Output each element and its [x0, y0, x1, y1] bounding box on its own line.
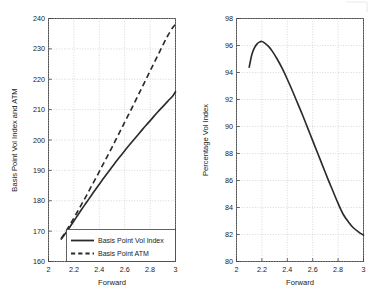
right-xtick-1: 2.2: [257, 265, 267, 274]
left-ytick-8: 240: [33, 14, 45, 23]
corner-artifact: [346, 2, 367, 12]
right-xtick-5: 3: [362, 265, 366, 274]
left-ytick-1: 170: [33, 227, 45, 236]
right-xtick-2: 2.4: [282, 265, 292, 274]
right-xtick-3: 2.6: [308, 265, 318, 274]
left-xtick-2: 2.4: [94, 265, 104, 274]
right-ytick-2: 84: [225, 203, 233, 212]
left-y-tick-labels: 160 170 180 190 200 210 220 230 240: [33, 14, 45, 266]
right-ytick-8: 96: [225, 41, 233, 50]
legend[interactable]: Basis Point Vol Index Basis Point ATM: [67, 230, 176, 262]
right-xtick-0: 2: [235, 265, 239, 274]
right-ytick-6: 92: [225, 95, 233, 104]
left-yaxis-title: Basis Point Vol Index and ATM: [10, 88, 19, 191]
chart-panel-right: 80 82 84 86 88 90 92 94 96 98 2 2.2 2.4 …: [191, 0, 382, 307]
left-xtick-0: 2: [47, 265, 51, 274]
right-xtick-4: 2.8: [333, 265, 343, 274]
left-ytick-6: 220: [33, 75, 45, 84]
left-ytick-7: 230: [33, 44, 45, 53]
left-chart-svg: 160 170 180 190 200 210 220 230 240 2 2.…: [0, 0, 191, 307]
legend-label-0: Basis Point Vol Index: [98, 237, 164, 244]
right-ytick-0: 80: [225, 257, 233, 266]
right-chart-svg: 80 82 84 86 88 90 92 94 96 98 2 2.2 2.4 …: [191, 0, 382, 307]
left-xtick-4: 2.8: [145, 265, 155, 274]
chart-panel-left: 160 170 180 190 200 210 220 230 240 2 2.…: [0, 0, 191, 307]
left-xtick-3: 2.6: [120, 265, 130, 274]
right-ytick-9: 98: [225, 14, 233, 23]
right-ytick-5: 90: [225, 122, 233, 131]
left-xaxis-title: Forward: [98, 278, 126, 287]
left-ytick-5: 210: [33, 105, 45, 114]
figure-container: 160 170 180 190 200 210 220 230 240 2 2.…: [0, 0, 383, 307]
left-ytick-0: 160: [33, 257, 45, 266]
right-x-tick-labels: 2 2.2 2.4 2.6 2.8 3: [235, 265, 366, 274]
right-y-tick-labels: 80 82 84 86 88 90 92 94 96 98: [225, 14, 233, 266]
right-ytick-7: 94: [225, 68, 233, 77]
left-ytick-4: 200: [33, 136, 45, 145]
right-xaxis-title: Forward: [286, 278, 314, 287]
right-ytick-3: 86: [225, 176, 233, 185]
left-xtick-1: 2.2: [69, 265, 79, 274]
left-x-tick-labels: 2 2.2 2.4 2.6 2.8 3: [47, 265, 178, 274]
legend-label-1: Basis Point ATM: [98, 250, 149, 257]
right-ytick-1: 82: [225, 230, 233, 239]
left-ytick-3: 190: [33, 166, 45, 175]
right-ytick-4: 88: [225, 149, 233, 158]
right-yaxis-title: Percentage Vol Index: [201, 104, 210, 176]
left-xtick-5: 3: [174, 265, 178, 274]
left-ytick-2: 180: [33, 196, 45, 205]
right-plot-area: [237, 19, 364, 262]
